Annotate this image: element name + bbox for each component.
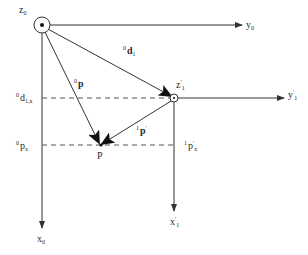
- origin-z1-dot: [173, 97, 175, 99]
- vector-0p: [44, 30, 99, 143]
- point-p-label: P: [97, 151, 103, 161]
- origin-z0-dot: [40, 23, 44, 27]
- z0-label: z0: [19, 5, 26, 15]
- vector-0d1: [46, 28, 171, 96]
- vector-0d1-label: 0d1: [123, 45, 136, 56]
- x0-label: x0: [37, 234, 45, 244]
- vector-0p-label: 0p: [74, 78, 84, 89]
- d1x-projection-label: 0d1,x: [16, 92, 33, 103]
- p1x-projection-label: 1p′x: [184, 140, 197, 151]
- y1-label: y′1: [288, 90, 297, 100]
- point-p-dot: [99, 143, 102, 146]
- vector-1p-prime-label: 1p′: [136, 125, 147, 136]
- y0-label: y0: [246, 20, 254, 30]
- vector-1p-prime: [102, 101, 171, 144]
- x1-label: x′1: [170, 217, 179, 227]
- px-projection-label: 0px: [16, 140, 28, 151]
- z1-label: z′1: [176, 80, 185, 90]
- coordinate-frames-diagram: [0, 0, 308, 255]
